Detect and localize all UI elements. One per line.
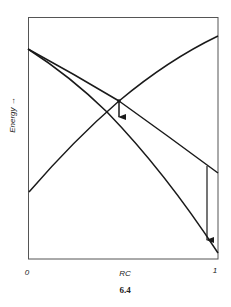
figure-caption: 6.4 [119, 285, 131, 295]
upper-declining-line [28, 49, 218, 173]
x-tick-start: 0 [25, 268, 30, 277]
x-tick-end: 1 [213, 266, 217, 275]
rising-curve [29, 36, 218, 192]
x-axis-label: RC [119, 269, 131, 278]
plot-frame [29, 18, 219, 260]
lower-declining-curve [28, 49, 218, 253]
y-axis-label: Energy → [8, 97, 17, 133]
energy-diagram: Energy → 0 RC 1 6.4 [0, 0, 231, 307]
